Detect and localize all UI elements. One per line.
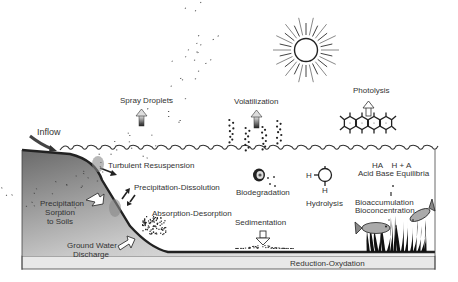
inflow-arrow-icon <box>30 136 52 149</box>
sediment-particles-icon <box>235 245 294 249</box>
up-arrow-icon <box>251 110 262 128</box>
label-hydrolysis-h-bottom: H <box>322 186 328 195</box>
label-reduction-oxydation: Reduction-Oxydation <box>290 259 365 268</box>
label-hydrolysis-h-left: H <box>306 171 312 180</box>
label-sedimentation: Sedimentation <box>235 218 286 227</box>
diagram-canvas <box>0 0 458 282</box>
particle-cluster-icon <box>142 216 166 235</box>
label-volatilization: Volatilization <box>234 97 278 106</box>
label-ground-water-discharge: Ground Water Discharge <box>67 241 115 259</box>
label-inflow: Inflow <box>37 128 61 137</box>
fish-icon <box>355 222 390 234</box>
label-hydrolysis: Hydrolysis <box>306 199 343 208</box>
microbe-icon <box>253 169 276 188</box>
label-absorption-desorption: Absorption-Desorption <box>152 209 232 218</box>
label-photolysis: Photolysis <box>353 86 389 95</box>
label-turbulent-resuspension: Turbulent Resuspension <box>108 161 194 170</box>
label-bioconcentration: Bioconcentration <box>355 206 415 215</box>
sun-icon <box>273 18 339 82</box>
label-precipitation-sorption: Precipitation Sorption to Soils <box>40 199 80 226</box>
down-arrow-icon <box>256 231 270 245</box>
label-precipitation-dissolution: Precipitation-Dissolution <box>134 183 220 192</box>
water-molecule-icon <box>314 166 332 186</box>
up-arrow-icon <box>363 101 374 116</box>
label-acid-base: Acid Base Equilibria <box>358 169 429 178</box>
label-biodegradation: Biodegradation <box>236 188 290 197</box>
label-spray-droplets: Spray Droplets <box>120 96 173 105</box>
